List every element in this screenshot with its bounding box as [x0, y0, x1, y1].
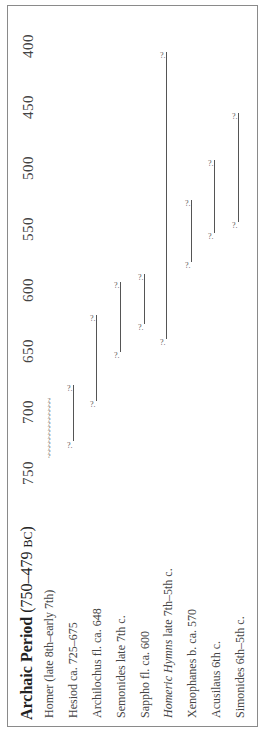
axis-tick: 500 — [20, 156, 37, 180]
date-range-bar — [73, 385, 74, 441]
row-label: Acusilaus 6th c. — [209, 641, 224, 718]
row-label-italic: Homeric Hymns — [161, 640, 175, 718]
title-bold: Archaic Period — [18, 617, 35, 720]
title-range: (750–479 — [18, 547, 35, 616]
row-label-text: Sappho fl. ca. 600 — [138, 631, 152, 718]
start-uncertain-cap: ?. — [67, 442, 73, 450]
row-label-text: Simonides 6th–5th c. — [233, 616, 247, 718]
axis-tick: 700 — [20, 400, 37, 424]
title-close: ) — [18, 526, 35, 531]
row-label-text: Hesiod ca. 725–675 — [66, 622, 80, 718]
row-label-text: Homer (late 8th–early 7th) — [42, 590, 56, 718]
date-range-bar — [120, 282, 121, 353]
date-range-bar — [144, 274, 145, 324]
row-label-text: Archilochus fl. ca. 648 — [90, 608, 104, 718]
start-uncertain-cap: ?. — [185, 262, 191, 270]
end-uncertain-cap: ?. — [160, 52, 166, 60]
date-range-bar — [214, 160, 215, 233]
end-uncertain-cap: ?. — [114, 282, 120, 290]
row-label-text: late 7th–5th c. — [161, 568, 175, 639]
end-uncertain-cap: ?. — [232, 113, 238, 121]
date-range-bar — [96, 315, 97, 402]
row-label-text: Xenophanes b. ca. 570 — [185, 609, 199, 718]
start-uncertain-cap: ?. — [232, 222, 238, 230]
row-label: Xenophanes b. ca. 570 — [185, 609, 200, 718]
row-label: Homer (late 8th–early 7th) — [42, 590, 57, 718]
start-uncertain-cap: ?. — [90, 401, 96, 409]
row-label: Semonides late 7th c. — [114, 615, 129, 718]
axis-tick: 750 — [20, 461, 37, 485]
end-uncertain-cap: ?. — [67, 385, 73, 393]
row-label: Archilochus fl. ca. 648 — [90, 608, 105, 718]
axis-tick: 650 — [20, 339, 37, 363]
uncertain-span: ? ? ? ? ? ? ? ? ? ? ? ? ? ? ? — [45, 398, 53, 461]
axis-tick: 550 — [20, 217, 37, 241]
row-label: Sappho fl. ca. 600 — [138, 631, 153, 718]
end-uncertain-cap: ?. — [208, 160, 214, 168]
date-range-bar — [191, 200, 192, 262]
axis-tick: 400 — [20, 34, 37, 58]
start-uncertain-cap: ?. — [114, 352, 120, 360]
axis-tick: 450 — [20, 95, 37, 119]
date-range-bar — [166, 52, 167, 339]
end-uncertain-cap: ?. — [138, 274, 144, 282]
start-uncertain-cap: ?. — [208, 233, 214, 241]
row-label-text: Acusilaus 6th c. — [209, 641, 223, 718]
chart-title: Archaic Period (750–479 BC) — [18, 526, 36, 720]
end-uncertain-cap: ?. — [90, 315, 96, 323]
row-label-text: Semonides late 7th c. — [114, 615, 128, 718]
date-range-bar — [238, 113, 239, 222]
axis-tick: 600 — [20, 278, 37, 302]
title-era: BC — [21, 531, 35, 547]
start-uncertain-cap: ?. — [138, 324, 144, 332]
end-uncertain-cap: ?. — [185, 200, 191, 208]
row-label: Homeric Hymns late 7th–5th c. — [161, 568, 176, 718]
start-uncertain-cap: ?. — [160, 339, 166, 347]
row-label: Simonides 6th–5th c. — [233, 616, 248, 718]
row-label: Hesiod ca. 725–675 — [66, 622, 81, 718]
